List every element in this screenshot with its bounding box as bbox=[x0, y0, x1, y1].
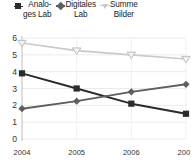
x-tick-labels: 2004200520062007 bbox=[14, 148, 191, 157]
chart-canvas: 0123456 2004200520062007 bbox=[0, 32, 191, 163]
data-point-square bbox=[128, 101, 134, 107]
series-line bbox=[22, 43, 186, 59]
chart-legend: Analo- ges Lab Digitales Lab Summe Bilde… bbox=[0, 0, 191, 32]
plot-area: 0123456 2004200520062007 bbox=[0, 32, 191, 163]
legend-label-analoges-lab: Analo- ges Lab bbox=[23, 0, 51, 19]
y-tick-label: 0 bbox=[12, 134, 17, 144]
x-tick-label: 2007 bbox=[178, 148, 191, 157]
y-tick-label: 6 bbox=[12, 33, 17, 43]
x-tick-label: 2006 bbox=[123, 148, 140, 157]
y-tick-label: 1 bbox=[12, 117, 17, 127]
data-point-diamond bbox=[18, 105, 25, 112]
y-tick-label: 5 bbox=[12, 50, 17, 60]
data-point-diamond bbox=[73, 98, 80, 105]
data-point-diamond bbox=[128, 88, 135, 95]
series-summe-bilder bbox=[18, 40, 190, 62]
series-digitales-lab bbox=[18, 81, 189, 113]
x-tick-label: 2005 bbox=[68, 148, 85, 157]
triangle-down-marker-icon bbox=[101, 1, 110, 12]
line-chart: Analo- ges Lab Digitales Lab Summe Bilde… bbox=[0, 0, 191, 163]
y-tick-label: 3 bbox=[12, 84, 17, 94]
series-line bbox=[22, 73, 186, 113]
y-tick-labels: 0123456 bbox=[12, 33, 17, 144]
diamond-marker-icon bbox=[56, 1, 65, 12]
legend-label-summe-bilder: Summe Bilder bbox=[110, 0, 138, 19]
data-point-diamond bbox=[182, 81, 189, 88]
square-marker-icon bbox=[14, 1, 23, 12]
y-tick-label: 4 bbox=[12, 67, 17, 77]
series-analoges-lab bbox=[19, 70, 189, 117]
legend-item-analoges-lab[interactable]: Analo- ges Lab bbox=[14, 0, 51, 19]
data-point-square bbox=[19, 70, 25, 76]
legend-item-digitales-lab[interactable]: Digitales Lab bbox=[56, 0, 96, 19]
x-tick-label: 2004 bbox=[14, 148, 31, 157]
data-point-square bbox=[183, 111, 189, 117]
legend-item-summe-bilder[interactable]: Summe Bilder bbox=[101, 0, 138, 19]
legend-label-digitales-lab: Digitales Lab bbox=[65, 0, 96, 19]
data-point-square bbox=[74, 85, 80, 91]
y-tick-label: 2 bbox=[12, 100, 17, 110]
